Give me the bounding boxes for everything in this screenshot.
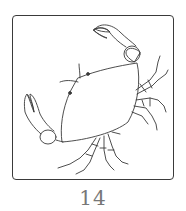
illustration-number: 14 <box>0 187 186 209</box>
bottom-legs <box>58 132 128 174</box>
crab-carapace <box>61 63 138 142</box>
crab-icon <box>0 0 186 211</box>
